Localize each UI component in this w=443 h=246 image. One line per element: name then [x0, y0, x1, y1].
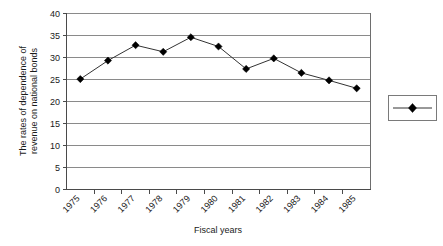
- x-tick-label: 1982: [254, 193, 275, 214]
- y-tick-label: 25: [50, 75, 60, 85]
- x-tick-label: 1977: [116, 193, 137, 214]
- y-tick-label: 35: [50, 31, 60, 41]
- y-tick-label: 15: [50, 119, 60, 129]
- x-tick-label: 1980: [198, 193, 219, 214]
- legend[interactable]: [389, 96, 437, 121]
- x-tick-label: 1981: [226, 193, 247, 214]
- y-axis-tick-labels: 40 35 30 25 20 15 10 5 0: [50, 9, 60, 195]
- x-axis-title: Fiscal years: [194, 225, 243, 235]
- chart-container: 40 35 30 25 20 15 10 5 0 1975 1976: [0, 0, 443, 246]
- y-axis-title: The rates of dependence of revenue on na…: [18, 45, 39, 156]
- y-tick-label: 20: [50, 97, 60, 107]
- x-tickmarks: [94, 190, 342, 195]
- y-tick-label: 30: [50, 53, 60, 63]
- x-tick-label: 1976: [88, 193, 109, 214]
- x-axis-tick-labels: 1975 1976 1977 1978 1979 1980 1981 1982 …: [60, 193, 357, 214]
- y-axis-title-line2: revenue on national bonds: [29, 47, 39, 154]
- x-tick-label: 1983: [281, 193, 302, 214]
- y-tickmarks: [63, 14, 67, 190]
- y-tick-label: 10: [50, 141, 60, 151]
- x-tick-label: 1985: [336, 193, 357, 214]
- line-chart: 40 35 30 25 20 15 10 5 0 1975 1976: [0, 0, 443, 246]
- x-tick-label: 1978: [143, 193, 164, 214]
- x-tick-label: 1984: [309, 193, 330, 214]
- x-tick-label: 1975: [60, 193, 81, 214]
- y-axis-title-line1: The rates of dependence of: [18, 45, 28, 156]
- y-tick-label: 40: [50, 9, 60, 19]
- y-tick-label: 5: [55, 163, 60, 173]
- x-tick-label: 1979: [171, 193, 192, 214]
- y-tick-label: 0: [55, 185, 60, 195]
